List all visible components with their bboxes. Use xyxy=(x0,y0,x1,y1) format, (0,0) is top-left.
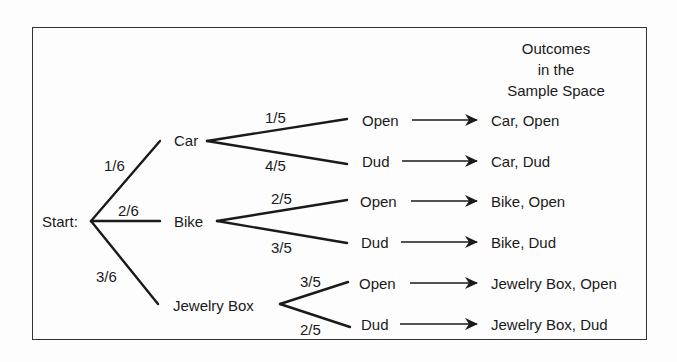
header-line-2: in the xyxy=(486,59,626,80)
node-car: Car xyxy=(174,133,198,148)
prob-car-dud: 4/5 xyxy=(265,158,286,173)
header-line-3: Sample Space xyxy=(486,80,626,101)
node-bike: Bike xyxy=(174,214,203,229)
prob-jewelry-open: 3/5 xyxy=(300,274,321,289)
prob-car: 1/6 xyxy=(104,158,125,173)
node-bike-dud: Dud xyxy=(361,235,389,250)
outcome-jewelry-dud: Jewelry Box, Dud xyxy=(491,317,608,332)
prob-jewelry: 3/6 xyxy=(96,269,117,284)
node-bike-open: Open xyxy=(360,194,397,209)
prob-bike-open: 2/5 xyxy=(271,191,292,206)
outcome-jewelry-open: Jewelry Box, Open xyxy=(491,276,617,291)
outcome-bike-open: Bike, Open xyxy=(491,194,565,209)
node-car-dud: Dud xyxy=(362,154,390,169)
outcome-car-open: Car, Open xyxy=(491,113,559,128)
prob-bike: 2/6 xyxy=(118,203,139,218)
outcome-car-dud: Car, Dud xyxy=(491,154,550,169)
header-line-1: Outcomes xyxy=(486,38,626,59)
prob-car-open: 1/5 xyxy=(265,110,286,125)
node-jewelry-open: Open xyxy=(359,276,396,291)
prob-bike-dud: 3/5 xyxy=(271,240,292,255)
outcome-bike-dud: Bike, Dud xyxy=(491,235,556,250)
node-car-open: Open xyxy=(362,113,399,128)
prob-jewelry-dud: 2/5 xyxy=(300,322,321,337)
node-jewelry-dud: Dud xyxy=(361,317,389,332)
node-jewelry-box: Jewelry Box xyxy=(173,298,254,313)
start-label: Start: xyxy=(42,214,78,229)
outcomes-header: Outcomes in the Sample Space xyxy=(486,38,626,101)
